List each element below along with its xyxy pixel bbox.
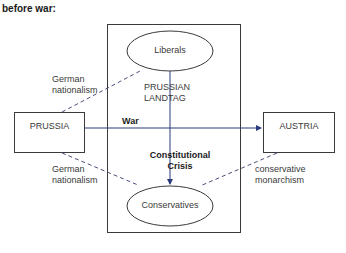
austria-label: AUSTRIA <box>263 121 335 132</box>
liberals-label: Liberals <box>127 45 213 56</box>
german-nationalism-top-line1: German <box>52 74 85 85</box>
german-nationalism-bottom-line1: German <box>52 164 85 175</box>
german-nationalism-top-line2: nationalism <box>52 85 98 96</box>
conservatives-label: Conservatives <box>127 200 213 211</box>
conservative-monarchism-line2: monarchism <box>255 175 304 186</box>
war-label: War <box>122 116 139 127</box>
conservative-monarchism-line1: conservative <box>255 164 306 175</box>
landtag-label-line2: LANDTAG <box>144 93 186 104</box>
diagram-title: before war: <box>2 3 56 14</box>
crisis-label-line2: Crisis <box>138 161 222 172</box>
prussia-label: PRUSSIA <box>14 121 85 132</box>
prussia-box <box>15 113 85 153</box>
landtag-label-line1: PRUSSIAN <box>144 82 190 93</box>
crisis-label-line1: Constitutional <box>138 150 222 161</box>
austria-box <box>264 113 335 153</box>
german-nationalism-bottom-line2: nationalism <box>52 175 98 186</box>
